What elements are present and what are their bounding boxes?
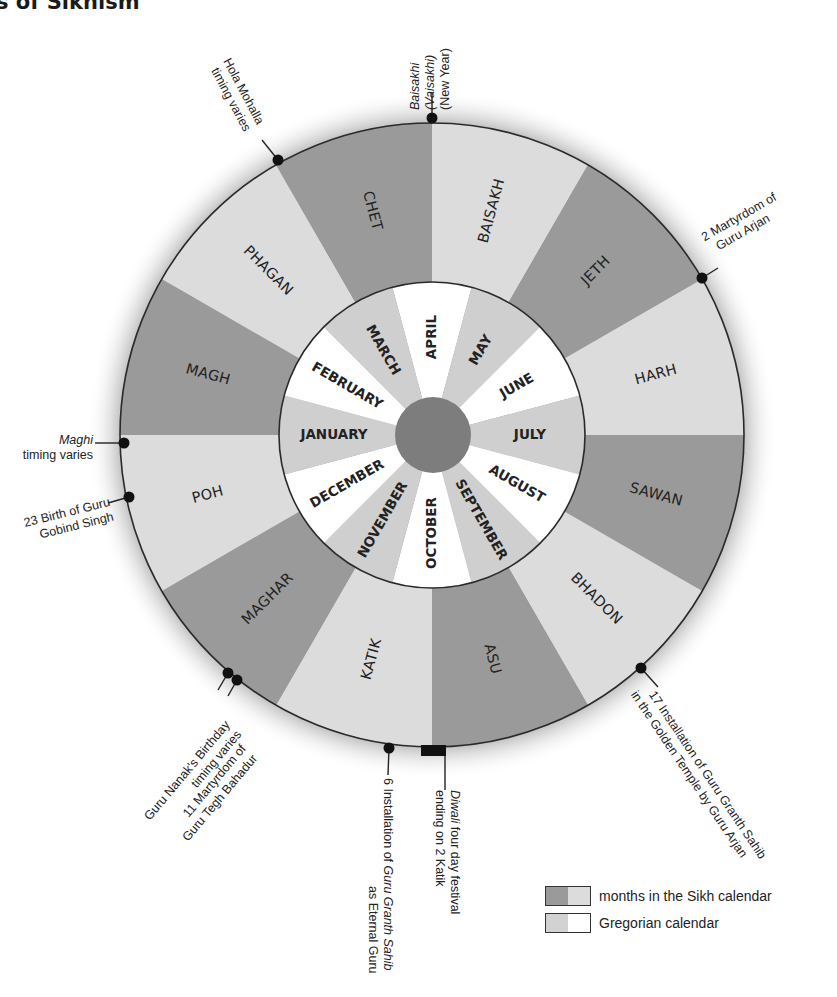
center-hub xyxy=(395,397,471,473)
annotation-installation-eternal: 6 Installation of Guru Granth Sahib as E… xyxy=(365,778,395,997)
legend-swatch-sikh xyxy=(545,886,591,906)
baisakhi-name: Baisakhi xyxy=(408,63,422,110)
annotation-diwali: Diwali four day festival ending on 2 Kat… xyxy=(432,790,462,950)
maghi-timing: timing varies xyxy=(8,448,93,463)
legend-swatch-gregorian xyxy=(545,913,591,933)
marker-installation-golden-dot xyxy=(636,663,647,674)
marker-martyrdom-arjan-dot xyxy=(697,273,708,284)
swatch-greg-gray xyxy=(546,914,568,932)
inner-label-april: APRIL xyxy=(423,314,439,359)
swatch-sikh-light xyxy=(568,887,590,905)
maghi-title: Maghi xyxy=(59,433,93,447)
annotation-baisakhi: Baisakhi (Vaisakhi) (New Year) xyxy=(408,20,453,110)
marker-nanak-birthday-dot xyxy=(223,668,234,679)
diwali-duration: four day festival xyxy=(448,823,462,914)
legend-item-sikh: months in the Sikh calendar xyxy=(545,884,772,908)
marker-maghi-dot xyxy=(119,438,130,449)
installation-eternal-line2: as Eternal Guru xyxy=(365,778,380,997)
inner-label-january: JANUARY xyxy=(299,426,367,442)
annotation-maghi: Maghi timing varies xyxy=(8,433,93,463)
marker-birth-gobind-dot xyxy=(124,492,135,503)
inner-label-july: JULY xyxy=(513,426,546,442)
marker-martyrdom-tegh-dot xyxy=(232,675,243,686)
legend-item-gregorian: Gregorian calendar xyxy=(545,911,772,935)
legend-label-gregorian: Gregorian calendar xyxy=(599,915,719,931)
vaisakhi-name: (Vaisakhi) xyxy=(423,55,437,110)
diwali-title: Diwali xyxy=(448,790,462,823)
legend-label-sikh: months in the Sikh calendar xyxy=(599,888,772,904)
legend: months in the Sikh calendar Gregorian ca… xyxy=(545,884,772,938)
guru-granth-sahib-text: Guru Granth Sahib xyxy=(381,866,395,971)
installation-eternal-prefix: 6 Installation of xyxy=(381,778,395,866)
calendar-wheel: BAISAKHJETHHARHSAWANBHADONASUKATIKMAGHAR… xyxy=(0,0,837,997)
diwali-ending: ending on 2 Katik xyxy=(432,790,447,950)
marker-hola-mohalla-dot xyxy=(273,155,284,166)
marker-baisakhi-dot xyxy=(427,113,438,124)
new-year-label: (New Year) xyxy=(438,20,453,110)
marker-installation-eternal-dot xyxy=(384,743,395,754)
inner-label-october: OCTOBER xyxy=(423,496,439,569)
swatch-greg-white xyxy=(568,914,590,932)
swatch-sikh-dark xyxy=(546,887,568,905)
marker-diwali-bar xyxy=(421,745,446,756)
